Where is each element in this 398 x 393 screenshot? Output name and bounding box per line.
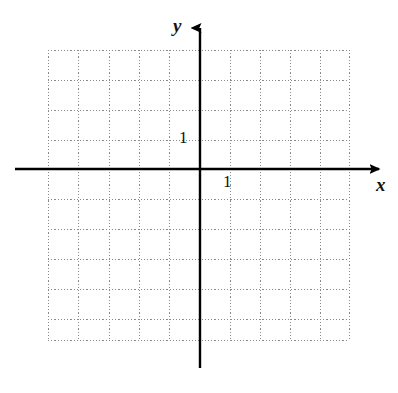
y-axis-unit-tick-label: 1 [179,129,188,146]
x-axis-unit-tick-label: 1 [223,173,232,190]
plot-canvas [0,0,398,393]
x-axis-label: x [376,175,386,194]
y-axis-label: y [173,16,181,35]
coordinate-grid-figure: y x 1 1 [0,0,398,393]
